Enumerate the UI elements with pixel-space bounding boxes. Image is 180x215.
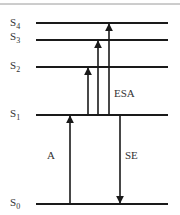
energy-levels [36,23,168,204]
label-stimulated-emission: SE [125,149,138,161]
label-s1: S1 [10,107,20,122]
energy-level-diagram: S4 S3 S2 S1 S0 A ESA SE [0,0,180,215]
label-s2: S2 [10,59,20,74]
label-s0: S0 [10,196,20,211]
label-s4: S4 [10,16,20,31]
label-s3: S3 [10,30,20,45]
label-esa: ESA [114,87,135,99]
transitions [70,24,120,204]
label-absorption: A [47,149,55,161]
level-labels: S4 S3 S2 S1 S0 [10,16,20,211]
